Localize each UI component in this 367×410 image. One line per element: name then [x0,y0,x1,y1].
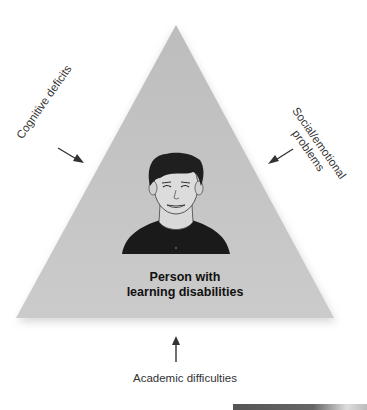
center-title-line1: Person with [100,270,270,285]
academic-arrow [172,336,180,362]
center-title-line2: learning disabilities [100,285,270,300]
center-title: Person with learning disabilities [100,270,270,300]
bottom-strip [233,404,367,410]
academic-difficulties-text: Academic difficulties [133,372,237,384]
academic-difficulties-label: Academic difficulties [100,372,270,384]
diagram-canvas [0,0,367,410]
cognitive-arrow [58,148,84,163]
social-arrow [268,149,293,164]
